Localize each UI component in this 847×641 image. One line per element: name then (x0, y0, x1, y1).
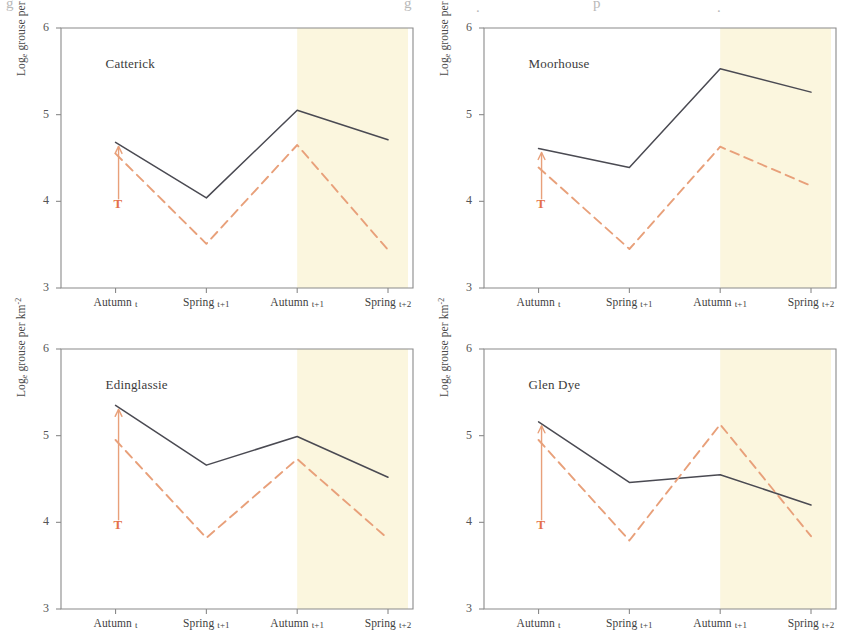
x-tick-label: Spring t+2 (343, 296, 433, 309)
figure-grouse-density-panels: Loge grouse per km-2 Catterick T 6543Aut… (0, 0, 847, 641)
shaded-treatment-band (720, 349, 831, 609)
treatment-marker-label: T (114, 196, 123, 212)
y-tick-label: 5 (456, 428, 472, 443)
plot-area-glen-dye (423, 321, 846, 641)
plot-area-edinglassie (0, 321, 423, 641)
y-tick-label: 5 (33, 107, 49, 122)
x-tick-label: Spring t+2 (766, 296, 847, 309)
y-tick-label: 6 (33, 20, 49, 35)
panel-edinglassie: Loge grouse per km-2 Edinglassie T 6543A… (0, 321, 423, 641)
y-axis-label: Loge grouse per km-2 (437, 227, 453, 397)
x-tick-label: Autumn t+1 (675, 296, 765, 309)
treatment-marker-label: T (537, 196, 546, 212)
x-tick-label: Spring t+2 (343, 617, 433, 630)
x-tick-label: Autumn t (71, 617, 161, 630)
panel-glen-dye: Loge grouse per km-2 Glen Dye T 6543Autu… (423, 321, 846, 641)
y-tick-label: 3 (33, 601, 49, 616)
y-axis-label: Loge grouse per km-2 (437, 0, 453, 76)
shaded-treatment-band (297, 349, 408, 609)
y-tick-label: 4 (456, 193, 472, 208)
x-tick-label: Spring t+1 (584, 296, 674, 309)
y-axis-label: Loge grouse per km-2 (14, 0, 30, 76)
panel-title: Glen Dye (529, 377, 581, 393)
x-tick-label: Spring t+2 (766, 617, 847, 630)
plot-area-catterick (0, 0, 423, 320)
y-tick-label: 3 (456, 601, 472, 616)
x-tick-label: Autumn t+1 (252, 617, 342, 630)
y-tick-label: 6 (456, 341, 472, 356)
x-tick-label: Autumn t+1 (252, 296, 342, 309)
treatment-marker-label: T (537, 517, 546, 533)
panel-catterick: Loge grouse per km-2 Catterick T 6543Aut… (0, 0, 423, 320)
y-tick-label: 3 (33, 280, 49, 295)
y-tick-label: 5 (33, 428, 49, 443)
y-tick-label: 5 (456, 107, 472, 122)
x-tick-label: Autumn t (494, 617, 584, 630)
y-tick-label: 6 (456, 20, 472, 35)
panel-title: Moorhouse (529, 56, 590, 72)
shaded-treatment-band (297, 28, 408, 288)
panel-title: Edinglassie (106, 377, 168, 393)
x-tick-label: Spring t+1 (161, 296, 251, 309)
y-tick-label: 4 (33, 193, 49, 208)
x-tick-label: Spring t+1 (161, 617, 251, 630)
x-tick-label: Autumn t (494, 296, 584, 309)
x-tick-label: Spring t+1 (584, 617, 674, 630)
y-axis-label: Loge grouse per km-2 (14, 227, 30, 397)
treatment-marker-label: T (114, 517, 123, 533)
x-tick-label: Autumn t (71, 296, 161, 309)
shaded-treatment-band (720, 28, 831, 288)
x-tick-label: Autumn t+1 (675, 617, 765, 630)
panel-title: Catterick (106, 56, 155, 72)
y-tick-label: 4 (456, 514, 472, 529)
y-tick-label: 3 (456, 280, 472, 295)
panel-moorhouse: Loge grouse per km-2 Moorhouse T 6543Aut… (423, 0, 846, 320)
plot-area-moorhouse (423, 0, 846, 320)
y-tick-label: 4 (33, 514, 49, 529)
y-tick-label: 6 (33, 341, 49, 356)
